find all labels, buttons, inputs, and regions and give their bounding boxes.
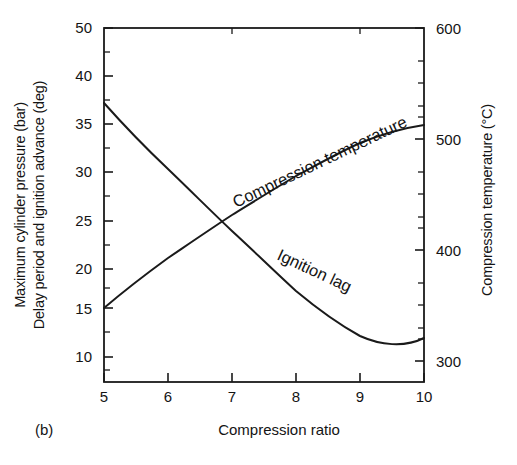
x-major-ticks xyxy=(104,373,424,382)
plot-area: Compression temperature Ignition lag xyxy=(0,0,517,465)
figure-panel-b: Maximum cylinder pressure (bar) Delay pe… xyxy=(0,0,517,465)
curve-label-compression-temperature: Compression temperature xyxy=(230,112,410,210)
plot-frame xyxy=(104,28,424,382)
curve-label-ignition-lag: Ignition lag xyxy=(275,245,355,295)
